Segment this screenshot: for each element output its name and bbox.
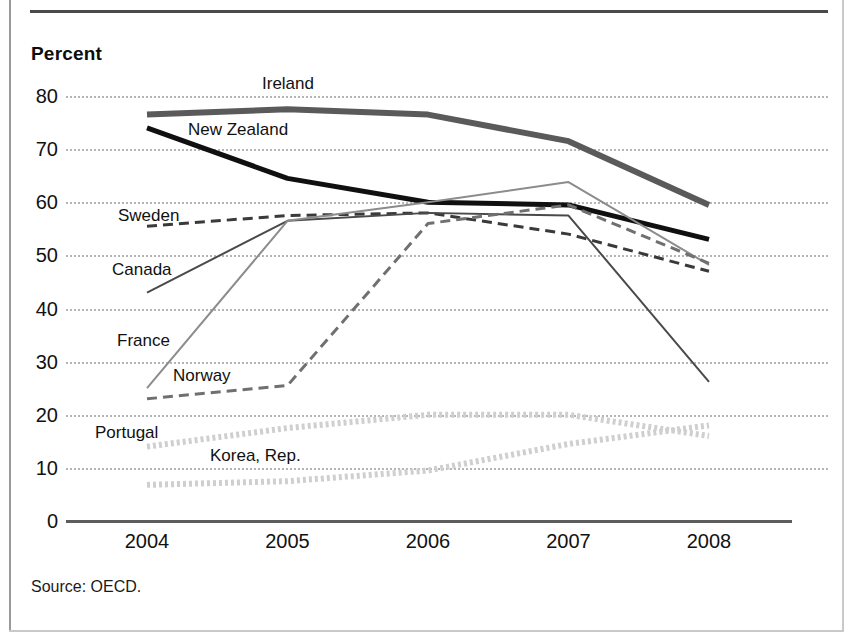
series-label-canada: Canada [112,260,172,280]
figure-page: Percent 01020304050607080 20042005200620… [0,0,844,632]
series-label-sweden: Sweden [118,206,179,226]
series-label-new-zealand: New Zealand [188,120,288,140]
series-line-sweden [147,213,709,271]
series-line-norway [147,205,709,399]
series-label-portugal: Portugal [95,423,158,443]
source-note: Source: OECD. [31,578,141,596]
series-label-france: France [117,331,170,351]
series-lines-group [0,0,844,632]
line-chart-plot: 01020304050607080 20042005200620072008 I… [0,0,844,632]
series-label-norway: Norway [173,366,231,386]
series-line-canada [147,213,709,382]
series-label-korea-rep: Korea, Rep. [210,446,301,466]
series-line-portugal [147,415,709,447]
series-label-ireland: Ireland [262,74,314,94]
